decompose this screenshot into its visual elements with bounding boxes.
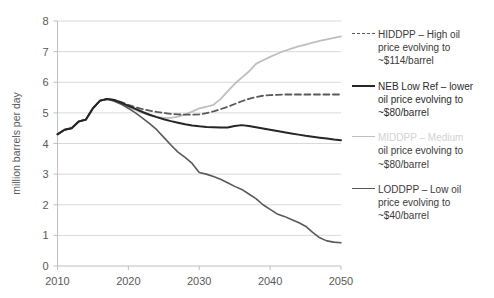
legend-label-neb-low-ref: NEB Low Ref – lower oil price evolving t… bbox=[378, 80, 494, 120]
legend-entry-hiddpp: HIDDPP – High oil price evolving to ~$11… bbox=[352, 28, 494, 68]
y-tick-label: 0 bbox=[42, 260, 48, 272]
x-axis-tick-labels: 20102020203020402050 bbox=[45, 275, 353, 287]
x-tick-label: 2030 bbox=[187, 275, 211, 287]
y-tick-label: 7 bbox=[42, 46, 48, 58]
legend-label-middpp: MIDDPP – Medium oil price evolving to ~$… bbox=[378, 131, 494, 171]
legend-entry-loddpp: LODDPP – Low oil price evolving to ~$40/… bbox=[352, 183, 494, 223]
y-tick-label: 3 bbox=[42, 168, 48, 180]
gridlines bbox=[58, 21, 342, 235]
x-tick-label: 2050 bbox=[329, 275, 353, 287]
series-line-neb-low-ref bbox=[58, 99, 342, 140]
y-tick-label: 1 bbox=[42, 229, 48, 241]
series-lines bbox=[58, 36, 342, 242]
x-tick-label: 2010 bbox=[45, 275, 69, 287]
series-line-loddpp bbox=[58, 99, 342, 243]
legend-label-middpp-line1: MIDDPP – Medium bbox=[378, 132, 463, 143]
x-tick-label: 2040 bbox=[258, 275, 282, 287]
y-tick-label: 4 bbox=[42, 138, 48, 150]
axis-ticks bbox=[54, 21, 342, 270]
legend-label-middpp-line3: ~$80/barrel bbox=[378, 159, 429, 170]
y-tick-label: 6 bbox=[42, 76, 48, 88]
series-line-middpp bbox=[58, 36, 342, 134]
legend-label-middpp-line2: oil price evolving to bbox=[378, 145, 463, 156]
y-axis-title-text: million barrels per day bbox=[10, 91, 22, 194]
chart-legend: HIDDPP – High oil price evolving to ~$11… bbox=[352, 28, 494, 234]
y-tick-label: 2 bbox=[42, 199, 48, 211]
legend-entry-neb-low-ref: NEB Low Ref – lower oil price evolving t… bbox=[352, 80, 494, 120]
y-axis-title: million barrels per day bbox=[10, 91, 22, 194]
legend-label-hiddpp: HIDDPP – High oil price evolving to ~$11… bbox=[378, 28, 494, 68]
legend-entry-middpp: MIDDPP – Medium oil price evolving to ~$… bbox=[352, 131, 494, 171]
y-axis-tick-labels: 012345678 bbox=[42, 15, 48, 272]
y-tick-label: 8 bbox=[42, 15, 48, 27]
y-tick-label: 5 bbox=[42, 107, 48, 119]
legend-label-loddpp: LODDPP – Low oil price evolving to ~$40/… bbox=[378, 183, 494, 223]
chart-container: 012345678 20102020203020402050 million b… bbox=[0, 0, 494, 298]
x-tick-label: 2020 bbox=[116, 275, 140, 287]
